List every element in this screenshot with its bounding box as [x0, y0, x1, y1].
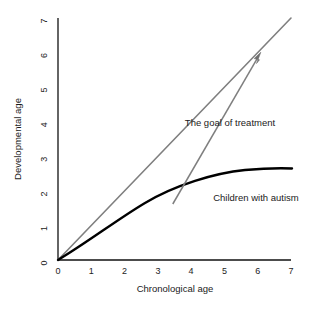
chart-background	[0, 0, 334, 309]
annotation-children-with-autism: Children with autism	[213, 192, 299, 203]
x-tick-label-6: 6	[255, 266, 260, 276]
y-tick-label-4: 4	[39, 122, 49, 127]
x-tick-label-3: 3	[155, 266, 160, 276]
y-tick-label-0: 0	[39, 260, 49, 265]
x-tick-label-1: 1	[89, 266, 94, 276]
y-tick-label-1: 1	[39, 226, 49, 231]
x-tick-label-7: 7	[288, 266, 293, 276]
chart-figure: 0 1 2 3 4 5 6 7 0 1 2 3 4 5 6 7 Chronolo…	[0, 0, 334, 309]
x-tick-label-2: 2	[122, 266, 127, 276]
x-axis-title: Chronological age	[137, 283, 214, 294]
x-tick-label-0: 0	[55, 266, 60, 276]
chart-svg: 0 1 2 3 4 5 6 7 0 1 2 3 4 5 6 7 Chronolo…	[0, 0, 334, 309]
x-tick-label-4: 4	[189, 266, 194, 276]
y-tick-label-3: 3	[39, 157, 49, 162]
x-tick-label-5: 5	[222, 266, 227, 276]
y-tick-label-7: 7	[39, 18, 49, 23]
y-tick-label-5: 5	[39, 88, 49, 93]
y-tick-label-2: 2	[39, 191, 49, 196]
y-axis-title: Developmental age	[12, 98, 23, 180]
annotation-goal-of-treatment: The goal of treatment	[185, 117, 276, 128]
y-tick-label-6: 6	[39, 53, 49, 58]
